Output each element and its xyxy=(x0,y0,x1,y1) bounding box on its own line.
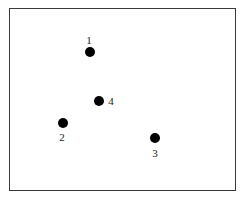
diagram-frame xyxy=(9,8,236,191)
point-2-label: 2 xyxy=(59,132,65,143)
point-1-dot xyxy=(85,47,95,57)
point-3-dot xyxy=(150,133,160,143)
point-4-dot xyxy=(94,96,104,106)
point-4-label: 4 xyxy=(108,96,114,107)
point-3-label: 3 xyxy=(152,148,158,159)
point-1-label: 1 xyxy=(86,35,92,46)
point-2-dot xyxy=(58,118,68,128)
